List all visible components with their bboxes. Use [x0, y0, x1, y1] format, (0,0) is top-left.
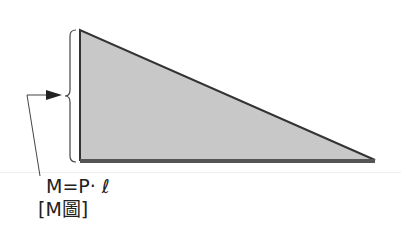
leader-line-diagonal — [27, 95, 40, 176]
arrow-icon — [46, 90, 62, 100]
formula-label: M=P· ℓ — [46, 176, 110, 196]
moment-triangle — [80, 30, 375, 160]
brace-icon — [65, 30, 76, 162]
caption-label: [M圖] — [38, 199, 88, 219]
